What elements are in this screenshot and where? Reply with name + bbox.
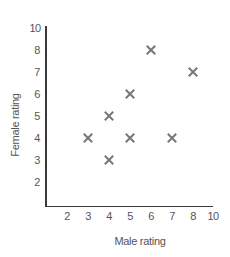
y-tick-label: 8 [34,44,40,56]
x-marker-icon [125,133,135,143]
x-tick-label: 6 [148,210,154,222]
y-tick-label: 5 [34,110,40,122]
x-tick-label: 8 [190,210,196,222]
x-axis-line [45,206,213,208]
x-tick-label: 7 [169,210,175,222]
y-tick-label: 4 [34,132,40,144]
x-marker-icon [104,111,114,121]
y-axis-line [45,26,47,207]
x-axis-title: Male rating [114,235,165,247]
y-tick-label: 3 [34,154,40,166]
x-tick-label: 10 [207,210,218,222]
x-tick-label: 4 [106,210,112,222]
x-tick-label: 3 [85,210,91,222]
x-marker-icon [188,67,198,77]
y-tick-label: 2 [34,176,40,188]
scatter-chart: 108765432 234567810 Female rating Male r… [0,0,230,257]
y-tick-label: 7 [34,66,40,78]
x-tick-label: 5 [127,210,133,222]
x-marker-icon [104,155,114,165]
x-marker-icon [125,89,135,99]
x-marker-icon [167,133,177,143]
x-marker-icon [146,45,156,55]
x-tick-label: 2 [64,210,70,222]
x-marker-icon [83,133,93,143]
y-axis-title: Female rating [9,93,21,156]
y-tick-label: 6 [34,88,40,100]
y-tick-label: 10 [29,22,40,34]
